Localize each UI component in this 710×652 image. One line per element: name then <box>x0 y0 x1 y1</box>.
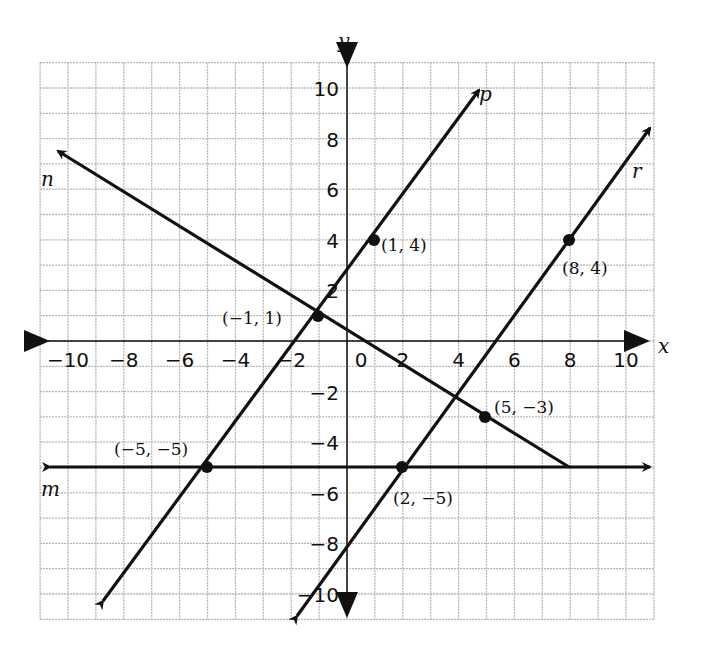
y-axis-label: y <box>337 29 350 53</box>
x-tick-label: −4 <box>221 348 250 372</box>
line-label-r: r <box>632 159 643 183</box>
point-1-4 <box>368 234 380 246</box>
point-8-4 <box>563 234 575 246</box>
y-tick-label: 6 <box>326 178 339 202</box>
y-tick-label: −4 <box>310 431 339 455</box>
line-n <box>58 151 569 467</box>
x-tick-label: 0 <box>355 348 368 372</box>
x-tick-label: 8 <box>564 348 577 372</box>
coordinate-plane: −10−8−6−4−20246810 108642−2−4−6−8−10 (−1… <box>0 0 710 652</box>
point-neg5-neg5 <box>201 461 213 473</box>
line-label-p: p <box>479 82 492 106</box>
y-tick-label: 4 <box>326 229 339 253</box>
x-tick-label: 6 <box>508 348 521 372</box>
point-label: (−5, −5) <box>114 439 188 459</box>
point-2-neg5 <box>396 461 408 473</box>
x-tick-label: 10 <box>613 348 638 372</box>
x-tick-label: 4 <box>452 348 465 372</box>
y-tick-label: −2 <box>310 381 339 405</box>
y-tick-label: 10 <box>314 77 339 101</box>
line-label-n: n <box>41 167 54 191</box>
y-tick-labels: 108642−2−4−6−8−10 <box>297 77 339 607</box>
x-tick-label: −10 <box>47 348 89 372</box>
x-tick-label: −8 <box>109 348 138 372</box>
point-label: (2, −5) <box>393 488 453 508</box>
y-tick-label: 8 <box>326 128 339 152</box>
point-label: (8, 4) <box>562 258 608 278</box>
y-tick-label: −8 <box>310 532 339 556</box>
point-label: (−1, 1) <box>222 308 282 328</box>
x-tick-labels: −10−8−6−4−20246810 <box>47 348 639 372</box>
line-label-m: m <box>41 477 60 501</box>
point-5-neg3 <box>479 411 491 423</box>
y-tick-label: −6 <box>310 482 339 506</box>
point-label: (1, 4) <box>381 235 427 255</box>
x-tick-label: −6 <box>165 348 194 372</box>
point-neg1-1 <box>312 310 324 322</box>
axes <box>48 66 648 616</box>
lines <box>50 90 650 616</box>
point-label: (5, −3) <box>494 397 554 417</box>
x-axis-label: x <box>658 334 669 358</box>
